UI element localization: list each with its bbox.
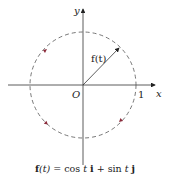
y-axis-label: y bbox=[73, 5, 80, 16]
origin-label: O bbox=[72, 89, 80, 100]
caption-j: j bbox=[132, 163, 135, 174]
caption: f(t) = cos t i + sin t j bbox=[0, 163, 170, 174]
tick-label-1: 1 bbox=[138, 89, 144, 100]
caption-t1: t bbox=[83, 163, 87, 174]
caption-plus: + sin bbox=[94, 163, 125, 174]
caption-t2: t bbox=[125, 163, 129, 174]
caption-arg: (t) bbox=[39, 163, 50, 174]
vector-label: f(t) bbox=[91, 53, 107, 64]
diagram-canvas: y x O 1 f(t) bbox=[0, 0, 170, 183]
caption-eq: = cos bbox=[50, 163, 83, 174]
x-axis-label: x bbox=[156, 88, 162, 99]
